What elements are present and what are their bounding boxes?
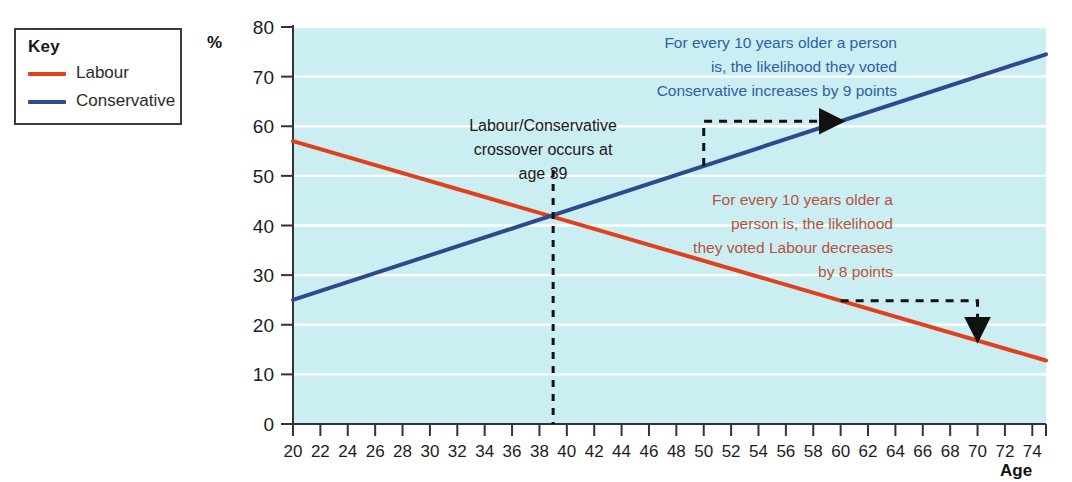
svg-text:66: 66 xyxy=(913,442,932,461)
svg-text:50: 50 xyxy=(253,166,274,187)
svg-text:60: 60 xyxy=(253,116,274,137)
svg-text:58: 58 xyxy=(804,442,823,461)
svg-text:52: 52 xyxy=(722,442,741,461)
svg-text:40: 40 xyxy=(253,216,274,237)
svg-text:42: 42 xyxy=(585,442,604,461)
svg-text:64: 64 xyxy=(886,442,905,461)
svg-text:20: 20 xyxy=(284,442,303,461)
svg-text:62: 62 xyxy=(859,442,878,461)
svg-text:For every 10 years older a: For every 10 years older a xyxy=(712,191,893,208)
svg-text:22: 22 xyxy=(311,442,330,461)
svg-text:10: 10 xyxy=(253,364,274,385)
svg-text:Labour/Conservative: Labour/Conservative xyxy=(469,117,617,134)
plot-area-wrapper: 01020304050607080 2022242628303234363840… xyxy=(0,0,1072,482)
svg-text:person is, the likelihood: person is, the likelihood xyxy=(731,215,893,232)
svg-text:26: 26 xyxy=(366,442,385,461)
svg-text:30: 30 xyxy=(420,442,439,461)
svg-text:54: 54 xyxy=(749,442,768,461)
svg-text:70: 70 xyxy=(253,67,274,88)
svg-text:68: 68 xyxy=(941,442,960,461)
svg-text:46: 46 xyxy=(640,442,659,461)
y-axis: 01020304050607080 xyxy=(253,17,293,435)
svg-text:crossover occurs at: crossover occurs at xyxy=(474,141,613,158)
x-axis: 2022242628303234363840424446485052545658… xyxy=(284,424,1046,461)
svg-text:56: 56 xyxy=(776,442,795,461)
svg-text:by 8 points: by 8 points xyxy=(818,263,893,280)
svg-text:34: 34 xyxy=(475,442,494,461)
svg-text:80: 80 xyxy=(253,17,274,38)
svg-text:For every 10 years older a per: For every 10 years older a person xyxy=(664,34,897,51)
svg-text:20: 20 xyxy=(253,315,274,336)
svg-text:70: 70 xyxy=(968,442,987,461)
svg-text:24: 24 xyxy=(338,442,357,461)
line-chart: 01020304050607080 2022242628303234363840… xyxy=(0,0,1072,482)
svg-text:40: 40 xyxy=(557,442,576,461)
svg-text:age 39: age 39 xyxy=(519,165,568,182)
svg-text:is, the likelihood they voted: is, the likelihood they voted xyxy=(711,58,897,75)
svg-text:44: 44 xyxy=(612,442,631,461)
svg-text:0: 0 xyxy=(263,414,274,435)
svg-text:32: 32 xyxy=(448,442,467,461)
svg-text:36: 36 xyxy=(503,442,522,461)
svg-text:74: 74 xyxy=(1023,442,1042,461)
svg-text:28: 28 xyxy=(393,442,412,461)
svg-text:38: 38 xyxy=(530,442,549,461)
svg-text:they voted Labour decreases: they voted Labour decreases xyxy=(693,239,893,256)
chart-screenshot: Key Labour Conservative % Age 0102030405… xyxy=(0,0,1072,482)
svg-text:72: 72 xyxy=(995,442,1014,461)
svg-text:Conservative increases by 9 po: Conservative increases by 9 points xyxy=(657,82,898,99)
svg-text:30: 30 xyxy=(253,265,274,286)
svg-text:60: 60 xyxy=(831,442,850,461)
svg-text:48: 48 xyxy=(667,442,686,461)
svg-text:50: 50 xyxy=(694,442,713,461)
